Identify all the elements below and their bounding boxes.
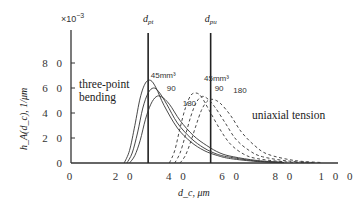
y-tick-label: 0 <box>57 157 66 169</box>
y-tick-label: 2 0 <box>42 132 65 144</box>
x-ticks: 02 04 06 08 01 0 0 <box>67 170 356 182</box>
x-tick-label: 0 <box>67 170 76 182</box>
x-tick-label: 2 0 <box>113 170 136 182</box>
annotation-tension: uniaxial tension <box>252 109 325 121</box>
y-tick-label: 4 0 <box>42 107 65 119</box>
series-group <box>124 80 321 163</box>
y-scale-label: ×10−3 <box>61 12 84 24</box>
volume-label: 45mm³ <box>151 71 176 80</box>
y-tick-label: 8 0 <box>42 57 65 69</box>
reference-line-label: dpu <box>205 13 218 26</box>
reference-line-label: dpt <box>143 13 155 26</box>
svg-text:h_A(d_c), 1/μm: h_A(d_c), 1/μm <box>18 88 30 150</box>
volume-label: 45mm³ <box>204 74 229 83</box>
series-line <box>127 88 284 163</box>
volume-label: 90 <box>215 84 224 93</box>
volume-label: 180 <box>183 99 197 108</box>
chart: ×10−3 h_A(d_c), 1/μm 02 04 06 08 0 02 04… <box>0 0 359 206</box>
volume-label: 180 <box>233 86 247 95</box>
x-axis-label: d_c, μm <box>178 187 210 198</box>
y-tick-label: 6 0 <box>42 82 65 94</box>
y-axis-label: h_A(d_c), 1/μm <box>18 88 30 150</box>
annotation-bending: bending <box>79 91 116 104</box>
x-tick-label: 6 0 <box>219 170 242 182</box>
annotation-bending: three-point <box>79 78 130 91</box>
volume-label: 90 <box>167 84 176 93</box>
y-ticks: 02 04 06 08 0 <box>42 57 75 169</box>
x-tick-label: 8 0 <box>272 170 295 182</box>
x-tick-label: 1 0 0 <box>319 170 356 182</box>
x-tick-label: 4 0 <box>166 170 189 182</box>
